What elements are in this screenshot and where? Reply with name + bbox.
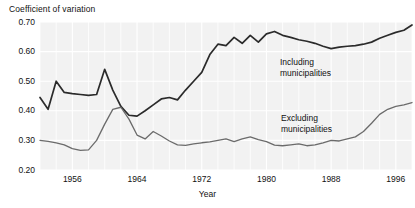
plot-background [40, 22, 412, 170]
series-annotation-including-line1: Including [280, 57, 331, 68]
y-tick-label: 0.50 [1, 76, 35, 86]
y-tick-label: 0.60 [1, 46, 35, 56]
x-tick-label: 1996 [376, 174, 415, 184]
series-annotation-including: Including municipalities [280, 57, 331, 78]
y-tick-label: 0.20 [1, 165, 35, 175]
x-tick-label: 1964 [117, 174, 157, 184]
x-tick-label: 1988 [311, 174, 351, 184]
x-tick-label: 1972 [182, 174, 222, 184]
series-annotation-excluding-line2: municipalities [281, 124, 332, 135]
x-axis-title: Year [0, 189, 415, 199]
y-tick-label: 0.70 [1, 17, 35, 27]
series-annotation-including-line2: municipalities [280, 68, 331, 79]
series-annotation-excluding: Excluding municipalities [281, 113, 332, 134]
y-tick-label: 0.40 [1, 105, 35, 115]
chart-container: Coefficient of variation 0.700.600.500.4… [0, 0, 415, 208]
series-annotation-excluding-line1: Excluding [281, 113, 332, 124]
y-tick-label: 0.30 [1, 135, 35, 145]
x-tick-label: 1980 [246, 174, 286, 184]
x-tick-label: 1956 [52, 174, 92, 184]
